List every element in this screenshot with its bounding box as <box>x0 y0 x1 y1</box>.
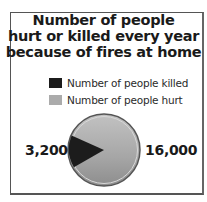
legend-swatch-hurt <box>49 95 62 105</box>
title-line-1: Number of people <box>0 12 207 28</box>
legend-item-hurt: Number of people hurt <box>49 91 188 108</box>
title-line-2: hurt or killed every year <box>0 28 207 44</box>
legend-label-hurt: Number of people hurt <box>67 94 182 106</box>
value-label-killed: 3,200 <box>25 142 68 158</box>
title-line-3: because of fires at home <box>0 44 207 60</box>
pie-chart <box>66 112 142 188</box>
legend-item-killed: Number of people killed <box>49 74 188 91</box>
legend-swatch-killed <box>49 78 62 88</box>
legend-label-killed: Number of people killed <box>67 77 188 89</box>
value-label-hurt: 16,000 <box>145 142 197 158</box>
chart-title: Number of people hurt or killed every ye… <box>0 12 207 60</box>
legend: Number of people killed Number of people… <box>49 74 188 108</box>
